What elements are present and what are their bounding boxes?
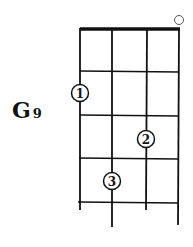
finger-label-2: 2 [142,133,150,147]
fret-3 [79,158,179,159]
open-string-marker-icon [175,16,184,25]
finger-label-3: 3 [108,175,116,189]
finger-marker-2: 2 [138,131,155,148]
string-3 [146,28,147,210]
finger-marker-3: 3 [104,173,121,190]
finger-marker-1: 1 [72,85,89,102]
fret-4 [78,202,178,203]
fret-1 [80,71,179,72]
chord-diagram: 1 2 3 [0,0,193,247]
fret-2 [80,115,179,116]
string-4 [178,28,179,225]
finger-label-1: 1 [76,87,84,101]
